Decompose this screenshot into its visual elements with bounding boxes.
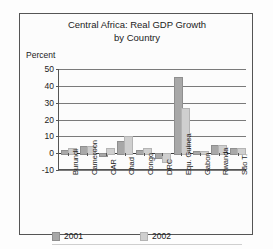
legend-label: 2001 — [64, 231, 83, 241]
x-tick-mark — [144, 153, 145, 156]
y-tick-label: 30 — [45, 98, 54, 108]
chart-frame: Central Africa: Real GDP Growth by Count… — [19, 13, 253, 235]
x-tick-mark — [219, 153, 220, 156]
x-tick-mark — [106, 153, 107, 156]
x-category-label: Burundi — [71, 149, 80, 175]
x-category-label: Cameroon — [90, 140, 99, 175]
chart-title-line-1: Central Africa: Real GDP Growth — [44, 19, 230, 32]
x-tick-mark — [87, 153, 88, 156]
chart-title: Central Africa: Real GDP Growth by Count… — [44, 19, 230, 44]
y-axis-unit-label: Percent — [26, 50, 55, 60]
chart-legend: 20012002 — [52, 231, 242, 245]
gridline — [59, 103, 246, 104]
y-tick-label: 50 — [45, 64, 54, 74]
x-category-label: Rwanda — [221, 147, 230, 175]
x-tick-mark — [238, 153, 239, 156]
y-tick-label: -10 — [42, 165, 54, 175]
y-tick-label: 40 — [45, 81, 54, 91]
y-tick-label: 10 — [45, 131, 54, 141]
y-tick-mark — [56, 153, 59, 154]
gridline — [59, 86, 246, 87]
x-tick-mark — [125, 153, 126, 156]
y-tick-mark — [56, 170, 59, 171]
y-tick-mark — [56, 136, 59, 137]
legend-label: 2002 — [152, 231, 171, 241]
legend-entry-2001[interactable]: 2001 — [52, 231, 83, 241]
x-tick-mark — [162, 153, 163, 156]
y-tick-mark — [56, 69, 59, 70]
y-tick-mark — [56, 120, 59, 121]
x-category-label: São T. — [240, 154, 249, 175]
x-tick-mark — [68, 153, 69, 156]
legend-swatch-icon — [140, 232, 148, 241]
chart-title-line-2: by Country — [44, 32, 230, 45]
y-tick-label: 20 — [45, 115, 54, 125]
x-category-label: Congo — [146, 153, 155, 175]
legend-separator — [52, 244, 242, 245]
legend-swatch-icon — [52, 232, 60, 241]
gridline — [59, 120, 246, 121]
x-category-label: Gabon — [203, 152, 212, 175]
gridline — [59, 136, 246, 137]
legend-entry-2002[interactable]: 2002 — [140, 231, 171, 241]
x-category-label: Chad — [127, 157, 136, 175]
x-tick-mark — [200, 153, 201, 156]
gridline — [59, 69, 246, 70]
x-tick-mark — [181, 153, 182, 156]
x-category-label: Equ. Guinea — [184, 133, 193, 175]
x-category-label: DRC — [165, 159, 174, 175]
chart-page: Central Africa: Real GDP Growth by Count… — [0, 0, 273, 249]
y-tick-mark — [56, 86, 59, 87]
x-category-label: CAR — [109, 159, 118, 175]
y-tick-mark — [56, 103, 59, 104]
y-tick-label: 0 — [49, 148, 54, 158]
